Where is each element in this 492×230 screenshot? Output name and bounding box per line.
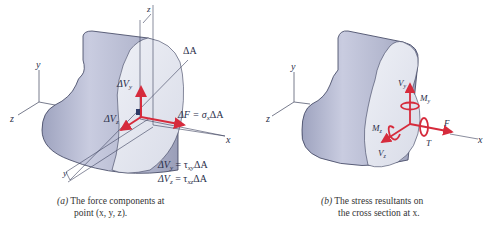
caption-panel-b: (b) The stress resultants on the cross s… — [321, 195, 423, 219]
axis-label-x-b: x — [477, 134, 483, 145]
offset-label-y: y — [62, 168, 67, 178]
panel-a-figure — [18, 5, 225, 182]
caption-b-line2: the cross section at x. — [321, 207, 423, 219]
axis-label-z-b: z — [265, 113, 270, 124]
caption-panel-a: (a) The force components at point (x, y,… — [57, 195, 164, 219]
caption-a-line1: (a) The force components at — [57, 195, 164, 207]
axis-label-y-b: y — [290, 61, 296, 72]
caption-b-line1: (b) The stress resultants on — [321, 195, 423, 207]
dF-label: ΔF = σxΔA — [177, 109, 224, 122]
axis-label-y-a: y — [35, 59, 41, 70]
equation-dVz: ΔVz = τxzΔA — [157, 173, 208, 186]
axis-label-x-a: x — [225, 134, 231, 145]
axis-label-z-a: z — [9, 113, 14, 124]
global-axes-b — [272, 72, 310, 116]
panel-b-figure — [272, 31, 478, 167]
caption-a-line2: point (x, y, z). — [57, 207, 164, 219]
My-label: My — [419, 93, 431, 104]
area-label: ΔA — [183, 45, 197, 56]
T-label: T — [426, 138, 432, 148]
F-label: F — [443, 118, 450, 128]
offset-label-z: z — [146, 4, 151, 14]
global-axes-a — [18, 70, 55, 115]
